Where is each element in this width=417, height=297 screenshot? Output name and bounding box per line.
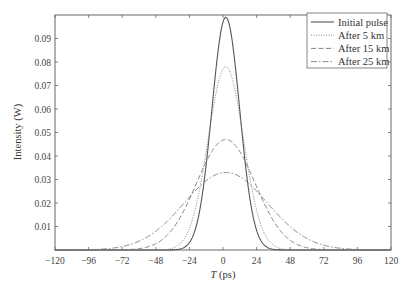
y-tick-label: 0.01 bbox=[34, 222, 51, 232]
y-tick-label: 0.05 bbox=[34, 128, 51, 138]
y-tick-label: 0.09 bbox=[34, 34, 51, 44]
legend: Initial pulseAfter 5 kmAfter 15 kmAfter … bbox=[307, 13, 389, 68]
x-tick-label: 0 bbox=[221, 256, 226, 266]
legend-label: Initial pulse bbox=[338, 17, 388, 28]
x-axis-label: T (ps) bbox=[211, 269, 236, 281]
x-tick-label: 48 bbox=[285, 256, 295, 266]
y-tick-label: 0.04 bbox=[34, 152, 51, 162]
y-tick-label: 0.02 bbox=[34, 199, 51, 209]
x-tick-label: −24 bbox=[182, 256, 197, 266]
x-tick-label: −72 bbox=[115, 256, 130, 266]
y-tick-label: 0.07 bbox=[34, 81, 51, 91]
y-axis-label: Intensity (W) bbox=[12, 103, 24, 160]
x-tick-label: 24 bbox=[252, 256, 262, 266]
pulse-intensity-chart: −120−96−72−48−24024487296120 0.010.020.0… bbox=[0, 0, 417, 297]
x-tick-label: −48 bbox=[148, 256, 163, 266]
x-tick-label: −96 bbox=[81, 256, 96, 266]
legend-label: After 5 km bbox=[338, 30, 384, 41]
curve-after-5-km bbox=[55, 67, 391, 250]
x-tick-label: −120 bbox=[45, 256, 65, 266]
legend-label: After 25 km bbox=[338, 56, 389, 67]
y-tick-label: 0.06 bbox=[34, 105, 51, 115]
legend-label: After 15 km bbox=[338, 43, 389, 54]
y-tick-label: 0.08 bbox=[34, 58, 51, 68]
curve-after-25-km bbox=[55, 172, 391, 250]
x-tick-label: 120 bbox=[384, 256, 399, 266]
x-tick-label: 96 bbox=[353, 256, 363, 266]
y-tick-label: 0.03 bbox=[34, 175, 51, 185]
x-tick-label: 72 bbox=[319, 256, 329, 266]
curve-after-15-km bbox=[55, 140, 391, 250]
